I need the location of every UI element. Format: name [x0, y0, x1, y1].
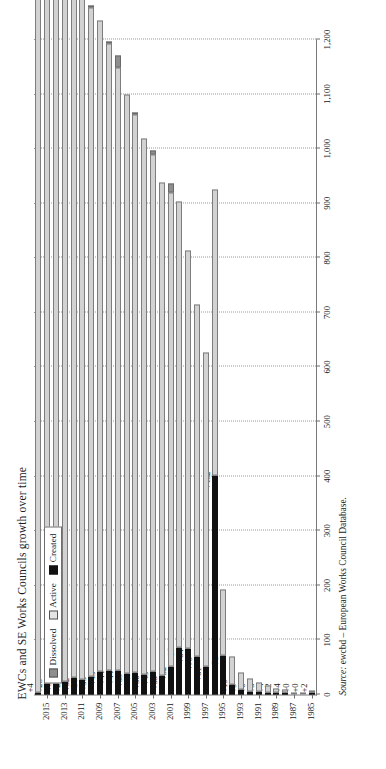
value-axis-tick [316, 584, 320, 585]
category-axis-label: 1991 [253, 702, 263, 734]
bar-row [62, 0, 68, 694]
bar-segment-created [176, 647, 182, 694]
bar-segment-active [309, 690, 315, 692]
bar-segment-active [194, 304, 200, 656]
category-axis-tick [241, 694, 242, 698]
category-axis-tick [118, 694, 119, 698]
value-axis-label: 900 [322, 183, 332, 223]
bar-segment-dissolved [106, 41, 112, 43]
bar-segment-created [88, 676, 94, 694]
bar-segment-created [124, 673, 130, 694]
bar-segment-active [273, 688, 279, 692]
category-axis-label: 2007 [112, 702, 122, 734]
category-axis-label: 2013 [59, 702, 69, 734]
bar-row [141, 138, 147, 694]
bar-segment-created [212, 475, 218, 694]
bar-row [124, 94, 130, 694]
category-axis-label: 2015 [41, 702, 51, 734]
bar-segment-created [203, 666, 209, 694]
bar-row [309, 690, 315, 694]
category-axis-label: 2011 [76, 702, 86, 734]
bar-segment-created [220, 655, 226, 694]
category-axis-label: 2005 [129, 702, 139, 734]
category-axis-tick [135, 694, 136, 698]
bar-row [194, 304, 200, 694]
bars-container: +2+0+0+4+2+4+5+6+9+19+71+402+51+70+84+87… [34, 39, 316, 694]
chart-title: EWCs and SE Works Councils growth over t… [16, 466, 28, 699]
category-axis-label: 2003 [147, 702, 157, 734]
bar-segment-dissolved [132, 112, 138, 114]
category-axis-tick [82, 694, 83, 698]
bar-row [176, 201, 182, 694]
source-note: Source: ewcbd – European Works Council D… [338, 497, 348, 695]
bar-segment-active [159, 182, 165, 675]
bar-segment-created [168, 666, 174, 694]
category-axis-label: 1989 [270, 702, 280, 734]
value-axis-label: 200 [322, 565, 332, 605]
category-axis-tick [171, 694, 172, 698]
value-axis-label: 600 [322, 347, 332, 387]
source-label: Source: [338, 666, 348, 695]
bar-segment-created [238, 689, 244, 694]
bar-segment-active [247, 678, 253, 691]
legend-item-label: Dissolved [48, 628, 58, 665]
bar-row [265, 685, 271, 694]
bar-segment-active [132, 114, 138, 672]
bar-segment-active [79, 0, 85, 679]
bar-row [88, 5, 94, 694]
bar-row [168, 183, 174, 694]
bar-row [150, 150, 156, 694]
category-axis-tick [188, 694, 189, 698]
value-axis-label: 0 [322, 674, 332, 714]
plot-area: +2+0+0+4+2+4+5+6+9+19+71+402+51+70+84+87… [34, 39, 317, 695]
legend-item-active: Active [48, 583, 58, 620]
value-axis-tick [316, 529, 320, 530]
bar-segment-active [62, 0, 68, 681]
category-axis-tick [259, 694, 260, 698]
bar-segment-created [185, 648, 191, 694]
value-axis-tick [316, 256, 320, 257]
value-axis-label: 100 [322, 619, 332, 659]
value-axis-tick [316, 147, 320, 148]
category-axis-tick [47, 694, 48, 698]
bar-segment-created [97, 671, 103, 694]
bar-value-label: +2 [299, 683, 309, 692]
category-axis-tick [206, 694, 207, 698]
bar-row [132, 112, 138, 694]
value-axis-label: 1,100 [322, 74, 332, 114]
value-axis-tick [316, 311, 320, 312]
bar-segment-active [115, 67, 121, 670]
bar-segment-active [88, 7, 94, 676]
category-axis-label: 1985 [306, 702, 316, 734]
bar-row [115, 55, 121, 694]
value-axis-label: 500 [322, 401, 332, 441]
bar-row [282, 689, 288, 694]
value-axis-tick [316, 93, 320, 94]
legend-swatch-icon [49, 668, 58, 677]
category-axis-tick [65, 694, 66, 698]
chart-legend: DissolvedActiveCreated [44, 526, 62, 683]
bar-segment-created [194, 656, 200, 694]
value-axis-label: 300 [322, 510, 332, 550]
legend-item-label: Created [48, 533, 58, 562]
bar-segment-active [185, 250, 191, 648]
bar-segment-created [79, 679, 85, 694]
category-axis-label: 1995 [217, 702, 227, 734]
figure-stage: EWCs and SE Works Councils growth over t… [0, 0, 386, 769]
legend-swatch-icon [49, 565, 58, 574]
value-axis-tick [316, 475, 320, 476]
source-text: ewcbd – European Works Council Database. [338, 497, 348, 664]
bar-row [247, 678, 253, 694]
bar-segment-created [62, 681, 68, 694]
value-axis-label: 400 [322, 456, 332, 496]
bar-segment-active [124, 94, 130, 673]
category-axis-tick [276, 694, 277, 698]
bar-segment-dissolved [168, 183, 174, 192]
value-axis-label: 800 [322, 237, 332, 277]
category-axis-tick [100, 694, 101, 698]
bar-row [229, 656, 235, 694]
bar-segment-active [150, 154, 156, 670]
bar-row [79, 0, 85, 694]
bar-row [35, 0, 41, 694]
bar-segment-active [71, 0, 77, 677]
